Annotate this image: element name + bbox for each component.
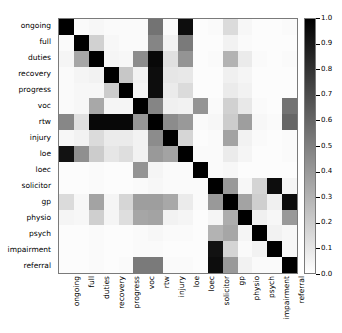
heatmap-cell bbox=[193, 67, 208, 83]
heatmap-cell bbox=[163, 19, 178, 35]
heatmap-cell bbox=[238, 19, 253, 35]
heatmap-cell bbox=[133, 178, 148, 194]
heatmap-cell bbox=[252, 162, 267, 178]
heatmap-cell bbox=[238, 130, 253, 146]
heatmap-cell bbox=[223, 146, 238, 162]
heatmap-cell bbox=[223, 225, 238, 241]
heatmap-cell bbox=[223, 130, 238, 146]
heatmap-cell bbox=[104, 146, 119, 162]
heatmap-cell bbox=[133, 146, 148, 162]
heatmap-cell bbox=[74, 162, 89, 178]
colorbar-tick-label-0.8: 0.8 bbox=[321, 66, 332, 73]
colorbar-tick-label-1.0: 1.0 bbox=[321, 15, 332, 22]
heatmap-cell bbox=[119, 67, 134, 83]
heatmap-cell bbox=[74, 130, 89, 146]
heatmap-cell bbox=[238, 194, 253, 210]
heatmap-cell bbox=[133, 51, 148, 67]
heatmap-cell bbox=[252, 194, 267, 210]
colorbar-tick bbox=[316, 18, 320, 19]
heatmap-cell bbox=[89, 98, 104, 114]
heatmap-cell bbox=[133, 35, 148, 51]
heatmap-cell bbox=[59, 83, 74, 99]
heatmap-cell bbox=[267, 257, 282, 273]
heatmap-cell bbox=[267, 225, 282, 241]
heatmap-cell bbox=[208, 114, 223, 130]
heatmap-cell bbox=[59, 162, 74, 178]
heatmap-cell bbox=[238, 178, 253, 194]
x-tick-label-loec: loec bbox=[204, 276, 219, 330]
heatmap-cell bbox=[282, 114, 297, 130]
heatmap-cell bbox=[133, 67, 148, 83]
heatmap-cell bbox=[89, 146, 104, 162]
heatmap-cell bbox=[178, 83, 193, 99]
heatmap-cell bbox=[74, 146, 89, 162]
heatmap-cell bbox=[223, 67, 238, 83]
heatmap-cell bbox=[193, 83, 208, 99]
heatmap-cell bbox=[208, 225, 223, 241]
heatmap-cell bbox=[208, 35, 223, 51]
heatmap-cell bbox=[178, 241, 193, 257]
heatmap-cell bbox=[282, 67, 297, 83]
heatmap-cell bbox=[193, 114, 208, 130]
heatmap-cell bbox=[163, 67, 178, 83]
y-tick-label-injury: injury bbox=[30, 130, 51, 146]
heatmap-cell bbox=[252, 35, 267, 51]
y-axis-tick-labels: ongoingfulldutiesrecoveryprogressvocrtwi… bbox=[0, 18, 55, 274]
heatmap-cell bbox=[252, 19, 267, 35]
heatmap-cell bbox=[193, 241, 208, 257]
heatmap-cell bbox=[148, 225, 163, 241]
heatmap-cell bbox=[223, 19, 238, 35]
heatmap-cell bbox=[163, 194, 178, 210]
heatmap-cell bbox=[252, 83, 267, 99]
heatmap-cell bbox=[208, 210, 223, 226]
heatmap-cell bbox=[178, 98, 193, 114]
heatmap-cell bbox=[208, 130, 223, 146]
heatmap-cell bbox=[178, 114, 193, 130]
x-tick-label-ongoing: ongoing bbox=[69, 276, 84, 330]
heatmap-cell bbox=[148, 178, 163, 194]
heatmap-cell bbox=[193, 98, 208, 114]
heatmap-cell bbox=[208, 67, 223, 83]
heatmap-cell bbox=[59, 51, 74, 67]
colorbar-tick-label-0.9: 0.9 bbox=[321, 40, 332, 47]
x-tick-label-duties: duties bbox=[99, 276, 114, 330]
heatmap-cell bbox=[282, 210, 297, 226]
heatmap-cell bbox=[119, 19, 134, 35]
heatmap-cell bbox=[193, 178, 208, 194]
heatmap-cell bbox=[223, 35, 238, 51]
heatmap-cell bbox=[252, 225, 267, 241]
y-tick-label-referral: referral bbox=[23, 258, 51, 274]
heatmap-cell bbox=[208, 83, 223, 99]
y-tick-label-loe: loe bbox=[40, 146, 51, 162]
heatmap-cell bbox=[119, 146, 134, 162]
heatmap-cell bbox=[119, 51, 134, 67]
x-tick-label-injury: injury bbox=[174, 276, 189, 330]
heatmap-cell bbox=[178, 162, 193, 178]
heatmap-cell bbox=[59, 98, 74, 114]
heatmap-cell bbox=[193, 130, 208, 146]
heatmap-cell bbox=[238, 146, 253, 162]
colorbar-tick-label-0.2: 0.2 bbox=[321, 219, 332, 226]
heatmap-cell bbox=[267, 162, 282, 178]
colorbar-tick bbox=[316, 274, 320, 275]
x-tick-label-solicitor: solicitor bbox=[219, 276, 234, 330]
heatmap-cell bbox=[267, 19, 282, 35]
heatmap-cell bbox=[148, 51, 163, 67]
heatmap-cell bbox=[238, 225, 253, 241]
colorbar-tick bbox=[316, 69, 320, 70]
heatmap-cell bbox=[267, 194, 282, 210]
heatmap-cell bbox=[282, 35, 297, 51]
heatmap-cell bbox=[282, 83, 297, 99]
heatmap-cell bbox=[133, 194, 148, 210]
heatmap-cell bbox=[282, 194, 297, 210]
heatmap-cell bbox=[282, 146, 297, 162]
heatmap-cell bbox=[208, 146, 223, 162]
heatmap-cell bbox=[252, 178, 267, 194]
heatmap-cell bbox=[133, 130, 148, 146]
heatmap-cell bbox=[267, 114, 282, 130]
y-tick-label-full: full bbox=[39, 34, 51, 50]
heatmap-cell bbox=[59, 130, 74, 146]
colorbar-tick bbox=[316, 248, 320, 249]
heatmap-cell bbox=[148, 130, 163, 146]
heatmap-cell bbox=[104, 67, 119, 83]
